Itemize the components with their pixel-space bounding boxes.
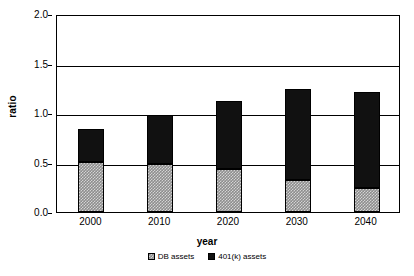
y-axis-ticks: 0.00.51.01.52.0 (18, 0, 52, 228)
x-tick-label: 2010 (125, 216, 194, 228)
bar-segment-db-assets[interactable] (354, 188, 380, 212)
x-tick-label: 2020 (194, 216, 263, 228)
stacked-bar-chart: ratio 0.00.51.01.52.0 200020102020203020… (0, 0, 414, 276)
y-tick-label: 1.0 (34, 109, 48, 119)
y-tick-mark (48, 213, 52, 214)
bar-segment-401k-assets[interactable] (285, 89, 311, 180)
legend-label: DB assets (158, 252, 194, 261)
legend-label: 401(k) assets (218, 252, 266, 261)
x-tick-label: 2030 (262, 216, 331, 228)
legend-item[interactable]: 401(k) assets (208, 252, 266, 261)
plot-area (56, 15, 400, 213)
y-tick-label: 0.5 (34, 159, 48, 169)
bar-group[interactable] (354, 14, 380, 212)
y-tick-label: 2.0 (34, 10, 48, 20)
bar-segment-db-assets[interactable] (285, 180, 311, 212)
y-tick-mark (48, 114, 52, 115)
y-tick-mark (48, 164, 52, 165)
x-tick-label: 2040 (331, 216, 400, 228)
bar-group[interactable] (216, 14, 242, 212)
bar-segment-db-assets[interactable] (78, 162, 104, 212)
y-tick-label: 0.0 (34, 208, 48, 218)
y-tick-label: 1.5 (34, 60, 48, 70)
bar-segment-db-assets[interactable] (147, 164, 173, 213)
x-tick-label: 2000 (56, 216, 125, 228)
x-axis-ticks: 20002010202020302040 (56, 216, 400, 232)
bar-group[interactable] (147, 14, 173, 212)
y-tick-mark (48, 15, 52, 16)
bars-layer (57, 16, 399, 212)
bar-segment-401k-assets[interactable] (78, 129, 104, 162)
legend-item[interactable]: DB assets (148, 252, 194, 261)
legend-swatch-401k-assets (208, 253, 215, 260)
bar-group[interactable] (78, 14, 104, 212)
bar-group[interactable] (285, 14, 311, 212)
bar-segment-401k-assets[interactable] (147, 115, 173, 164)
chart-legend: DB assets401(k) assets (0, 252, 414, 261)
bar-segment-401k-assets[interactable] (354, 92, 380, 188)
bar-segment-401k-assets[interactable] (216, 101, 242, 169)
bar-segment-db-assets[interactable] (216, 169, 242, 212)
y-tick-mark (48, 65, 52, 66)
legend-swatch-db-assets (148, 253, 155, 260)
y-axis-title-text: ratio (7, 95, 18, 118)
x-axis-title: year (0, 236, 414, 247)
